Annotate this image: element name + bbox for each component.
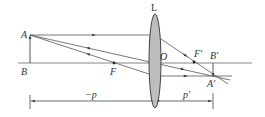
label-optical-center: O [160,51,167,62]
lens-ray-diagram: L A B F O F' B' A' −p p' [0,0,265,117]
focal-point-left [113,62,116,65]
ray-parallel [30,35,228,84]
label-object-base: B [21,66,27,77]
label-focal-right: F' [193,48,203,59]
label-lens: L [151,2,157,13]
label-focal-left: F [109,66,117,77]
label-image-distance: p' [182,89,191,100]
label-object-distance: −p [85,89,97,100]
label-image-top: A' [206,78,216,89]
focal-point-right [193,61,196,64]
label-object-top: A [20,29,28,40]
label-image-base: B' [210,50,219,61]
